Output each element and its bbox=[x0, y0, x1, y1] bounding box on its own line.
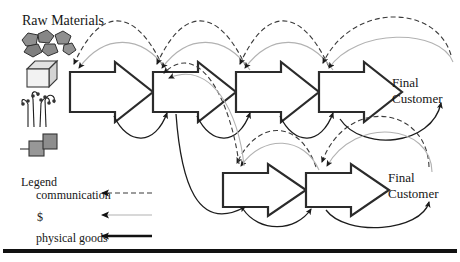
stage-arrow-lower-2 bbox=[306, 164, 389, 216]
final-customer-upper-line2: Customer bbox=[392, 91, 443, 106]
communication-arc-lower-fc bbox=[322, 116, 429, 167]
legend-title: Legend bbox=[21, 175, 57, 189]
stage-arrow-upper-4 bbox=[319, 62, 402, 122]
legend-communication-label: communication bbox=[36, 188, 111, 202]
final-customer-lower-line2: Customer bbox=[388, 186, 439, 201]
communication-arc-upper-3 bbox=[240, 21, 329, 67]
money-arc-upper-1 bbox=[79, 42, 167, 70]
communication-arc-upper-fc bbox=[323, 17, 451, 63]
box-icon bbox=[27, 61, 57, 87]
money-arc-upper-2 bbox=[162, 42, 250, 70]
final-customer-upper-line1: Final bbox=[392, 75, 419, 90]
legend-physical-goods-label: physical goods bbox=[36, 231, 108, 245]
money-arc-lower-1 bbox=[241, 143, 319, 170]
stage-arrow-upper-1 bbox=[70, 62, 153, 122]
diagram-canvas: Raw Materials Final Customer Final Custo… bbox=[0, 0, 460, 262]
stage-arrow-lower-1 bbox=[223, 164, 306, 216]
legend-money-label: $ bbox=[37, 210, 43, 224]
goods-arc-lower-1 bbox=[243, 209, 311, 227]
rocks-icon bbox=[22, 30, 76, 57]
communication-arc-upper-2 bbox=[157, 21, 246, 67]
stage-arrow-upper-3 bbox=[236, 62, 319, 122]
money-arc-upper-3 bbox=[245, 42, 333, 70]
raw-materials-label: Raw Materials bbox=[22, 13, 104, 28]
bottom-divider-bar bbox=[3, 249, 457, 253]
squares-icon bbox=[20, 134, 57, 156]
legend: Legend communication $ physical goods bbox=[21, 175, 152, 245]
money-arc-upper-fc bbox=[329, 37, 453, 68]
final-customer-upper-label: Final Customer bbox=[392, 75, 443, 106]
final-customer-lower-line1: Final bbox=[388, 170, 415, 185]
plants-icon bbox=[21, 92, 56, 127]
communication-arc-lower-1 bbox=[237, 130, 316, 167]
final-customer-lower-label: Final Customer bbox=[388, 170, 439, 201]
stage-arrow-upper-2 bbox=[153, 62, 236, 122]
supply-chain-diagram: Raw Materials Final Customer Final Custo… bbox=[0, 0, 460, 262]
money-arc-lower-fc bbox=[327, 132, 432, 172]
